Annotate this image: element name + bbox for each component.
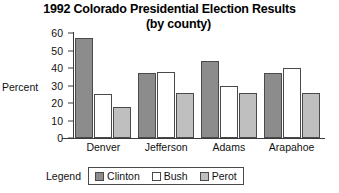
bar-clinton-adams bbox=[201, 61, 219, 138]
bar-group bbox=[138, 33, 194, 138]
chart-screenshot: 1992 Colorado Presidential Election Resu… bbox=[0, 0, 339, 193]
y-axis-ticks: 6050403020100 bbox=[0, 0, 74, 193]
legend-swatch-clinton-icon bbox=[95, 172, 104, 181]
legend-box: ClintonBushPerot bbox=[88, 167, 244, 185]
y-tick-label: 50 bbox=[51, 45, 63, 57]
bar-bush-jefferson bbox=[157, 72, 175, 139]
bar-group bbox=[264, 33, 320, 138]
y-tick-label: 30 bbox=[51, 80, 63, 92]
x-axis-label-adams: Adams bbox=[213, 141, 246, 153]
x-axis-label-denver: Denver bbox=[86, 141, 120, 153]
legend-item-bush: Bush bbox=[152, 170, 188, 182]
x-axis-label-arapahoe: Arapahoe bbox=[269, 141, 315, 153]
legend-swatch-perot-icon bbox=[200, 172, 209, 181]
bar-group bbox=[201, 33, 257, 138]
legend-label: Bush bbox=[164, 170, 188, 182]
bar-bush-denver bbox=[94, 94, 112, 138]
bar-perot-adams bbox=[239, 93, 257, 139]
y-tick-label: 10 bbox=[51, 115, 63, 127]
bar-clinton-denver bbox=[75, 38, 93, 138]
bar-perot-arapahoe bbox=[302, 93, 320, 139]
bar-perot-denver bbox=[113, 107, 131, 139]
legend-item-perot: Perot bbox=[200, 170, 237, 182]
bar-bush-adams bbox=[220, 86, 238, 139]
y-tick-label: 20 bbox=[51, 97, 63, 109]
legend: Legend ClintonBushPerot bbox=[46, 167, 244, 185]
x-axis-line bbox=[62, 138, 325, 139]
y-tick-label: 60 bbox=[51, 27, 63, 39]
legend-swatch-bush-icon bbox=[152, 172, 161, 181]
bar-group bbox=[75, 33, 131, 138]
bar-perot-jefferson bbox=[176, 93, 194, 139]
legend-item-clinton: Clinton bbox=[95, 170, 140, 182]
legend-label: Perot bbox=[212, 170, 237, 182]
x-axis-label-jefferson: Jefferson bbox=[145, 141, 188, 153]
bar-bush-arapahoe bbox=[283, 68, 301, 138]
legend-label: Clinton bbox=[107, 170, 140, 182]
bar-clinton-arapahoe bbox=[264, 73, 282, 138]
plot-area bbox=[74, 33, 325, 138]
legend-title: Legend bbox=[46, 170, 81, 182]
bar-clinton-jefferson bbox=[138, 73, 156, 138]
y-tick-label: 40 bbox=[51, 62, 63, 74]
